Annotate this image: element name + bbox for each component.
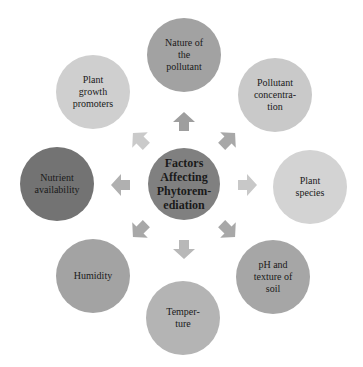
center-label: Factors Affecting Phytorem- ediation (157, 156, 211, 212)
factor-plant-growth-promoters: Plant growth promoters (56, 55, 130, 129)
factor-nature-of-pollutant: Nature of the pollutant (147, 18, 221, 92)
factor-label: pH and texture of soil (254, 259, 293, 295)
factor-humidity: Humidity (56, 239, 130, 313)
factor-pollutant-concentration: Pollutant concentra- tion (238, 58, 312, 132)
arrow-down-right-icon (214, 216, 243, 245)
factor-label: Humidity (74, 270, 112, 282)
center-node: Factors Affecting Phytorem- ediation (148, 148, 220, 220)
arrow-down-left-icon (125, 216, 154, 245)
factor-label: Nature of the pollutant (165, 37, 203, 73)
arrow-up-right-icon (214, 125, 243, 154)
factor-label: Plant growth promoters (73, 74, 114, 110)
arrow-up-left-icon (125, 125, 154, 154)
arrow-left-icon (111, 174, 130, 196)
factor-label: Plant species (296, 175, 325, 199)
arrow-down-icon (173, 240, 195, 259)
factor-label: Pollutant concentra- tion (254, 77, 296, 113)
factor-nutrient-availability: Nutrient availability (20, 147, 94, 221)
factor-temperature: Temper- ture (146, 281, 220, 355)
factor-ph-and-soil-texture: pH and texture of soil (236, 240, 310, 314)
arrow-right-icon (238, 174, 257, 196)
factor-plant-species: Plant species (273, 150, 347, 224)
factor-label: Temper- ture (166, 306, 200, 330)
arrow-up-icon (173, 112, 195, 131)
factor-label: Nutrient availability (35, 172, 80, 196)
